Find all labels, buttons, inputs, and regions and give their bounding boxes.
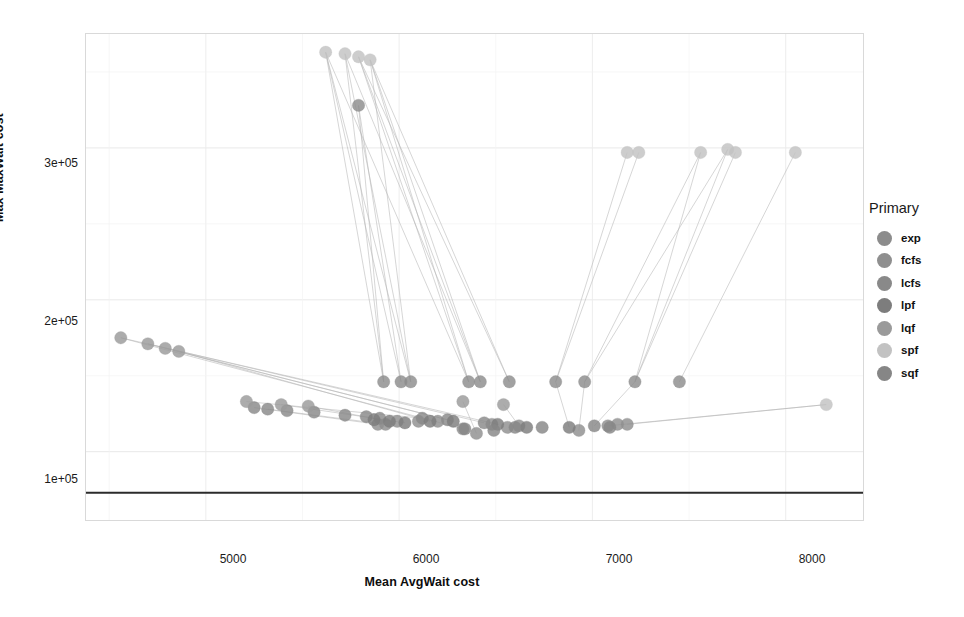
data-point	[319, 46, 331, 58]
legend-item-sqf[interactable]: sqf	[869, 362, 964, 385]
data-point	[377, 376, 389, 388]
legend-item-spf[interactable]: spf	[869, 340, 964, 363]
data-point	[497, 398, 509, 410]
legend-key-sqf-icon	[877, 366, 892, 381]
data-point	[521, 421, 533, 433]
data-point	[262, 403, 274, 415]
data-point	[405, 376, 417, 388]
connector-lines	[121, 52, 826, 433]
data-point	[549, 376, 561, 388]
data-point	[173, 345, 185, 357]
legend-item-lcfs[interactable]: lcfs	[869, 272, 964, 295]
data-point	[488, 424, 500, 436]
x-axis-title: Mean AvgWait cost	[0, 575, 964, 589]
series-exp	[352, 99, 685, 388]
data-point	[509, 421, 521, 433]
legend-item-lpf[interactable]: lpf	[869, 295, 964, 318]
data-point	[694, 146, 706, 158]
data-point	[503, 376, 515, 388]
legend-key-spf-icon	[877, 343, 892, 358]
data-point	[368, 414, 380, 426]
y-tick-2e05: 2e+05	[20, 314, 78, 328]
data-point	[240, 395, 252, 407]
legend-key-lpf-icon	[877, 298, 892, 313]
x-tick-6000: 6000	[391, 552, 461, 566]
plot-panel	[85, 33, 864, 521]
legend-key-fcfs-icon	[877, 253, 892, 268]
data-point	[275, 398, 287, 410]
legend-item-fcfs[interactable]: fcfs	[869, 250, 964, 273]
chart-root: 3e+05 2e+05 1e+05 5000 6000 7000 8000 Ma…	[0, 0, 964, 617]
data-point	[820, 398, 832, 410]
data-point	[352, 51, 364, 63]
x-tick-8000: 8000	[777, 552, 847, 566]
legend-items: expfcfslcfslpflqfspfsqf	[869, 227, 964, 385]
gridlines	[86, 34, 863, 520]
legend-label: exp	[901, 233, 921, 245]
data-point	[302, 400, 314, 412]
legend-label: sqf	[901, 368, 918, 380]
legend-key-lqf-icon	[877, 321, 892, 336]
data-point	[399, 417, 411, 429]
data-point	[474, 376, 486, 388]
data-point	[536, 421, 548, 433]
legend-key-exp-icon	[877, 231, 892, 246]
data-point	[339, 409, 351, 421]
y-axis-title: Max MaxWait cost	[0, 2, 6, 222]
data-point	[424, 415, 436, 427]
series-lqf	[115, 332, 510, 413]
legend-label: lpf	[901, 300, 915, 312]
data-point	[159, 342, 171, 354]
data-point	[463, 376, 475, 388]
legend-label: spf	[901, 345, 918, 357]
data-point	[142, 338, 154, 350]
x-tick-7000: 7000	[584, 552, 654, 566]
data-point	[470, 427, 482, 439]
data-point	[115, 332, 127, 344]
legend-title: Primary	[869, 200, 964, 216]
data-point	[578, 376, 590, 388]
data-point	[447, 415, 459, 427]
data-point	[339, 48, 351, 60]
data-point	[789, 146, 801, 158]
y-tick-1e05: 1e+05	[20, 472, 78, 486]
legend-label: lqf	[901, 323, 915, 335]
data-point	[673, 376, 685, 388]
data-point	[629, 376, 641, 388]
data-point	[383, 415, 395, 427]
data-point	[459, 423, 471, 435]
data-point	[604, 421, 616, 433]
legend-key-lcfs-icon	[877, 276, 892, 291]
data-point	[563, 421, 575, 433]
data-point	[352, 99, 364, 111]
legend-label: fcfs	[901, 255, 921, 267]
legend-item-exp[interactable]: exp	[869, 227, 964, 250]
data-point	[729, 146, 741, 158]
data-point	[621, 418, 633, 430]
y-tick-3e05: 3e+05	[20, 156, 78, 170]
data-point	[621, 146, 633, 158]
legend-item-lqf[interactable]: lqf	[869, 317, 964, 340]
data-point	[588, 420, 600, 432]
data-point	[364, 54, 376, 66]
data-point	[633, 146, 645, 158]
plot-canvas	[86, 34, 863, 520]
x-tick-5000: 5000	[198, 552, 268, 566]
legend-label: lcfs	[901, 278, 921, 290]
legend: Primary expfcfslcfslpflqfspfsqf	[869, 200, 964, 385]
series-spf	[319, 46, 832, 411]
data-point	[457, 395, 469, 407]
